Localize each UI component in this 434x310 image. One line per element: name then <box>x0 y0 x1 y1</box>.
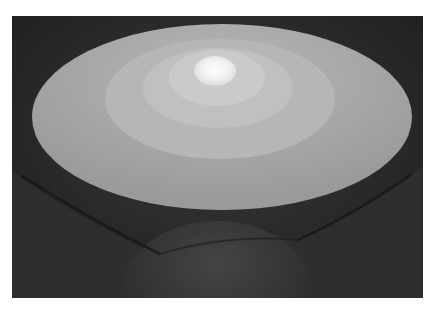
ceiling-scene <box>12 16 423 298</box>
photograph <box>12 16 423 298</box>
oculus-light <box>194 56 236 86</box>
